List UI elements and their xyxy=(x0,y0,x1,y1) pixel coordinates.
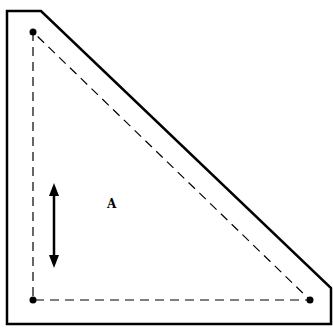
vertex-point-bottom-right xyxy=(307,297,314,304)
arrow-head-up-icon xyxy=(49,183,59,196)
outer-outline xyxy=(7,11,331,324)
region-label: A xyxy=(107,197,116,211)
vertex-point-bottom-left xyxy=(30,297,37,304)
inner-dashed-triangle xyxy=(33,32,310,300)
diagram-canvas: A xyxy=(0,0,333,331)
vertex-point-top xyxy=(30,29,37,36)
diagram-svg xyxy=(0,0,333,331)
arrow-head-down-icon xyxy=(49,255,59,268)
